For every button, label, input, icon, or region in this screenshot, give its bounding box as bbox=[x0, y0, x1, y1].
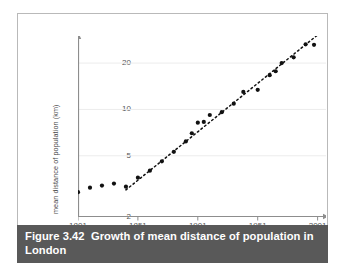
y-axis-title: mean distance of population (km) bbox=[51, 54, 60, 214]
figure-caption-number: Figure 3.42 bbox=[25, 230, 85, 242]
chart-canvas bbox=[78, 36, 326, 221]
figure-caption: Figure 3.42 Growth of mean distance of p… bbox=[25, 230, 320, 257]
y-axis-title-wrap: mean distance of population (km) bbox=[51, 59, 63, 219]
figure-caption-bar: Figure 3.42 Growth of mean distance of p… bbox=[17, 225, 328, 263]
plot-area: 251020 18011851190119512001 bbox=[78, 36, 326, 217]
figure-page: 251020 18011851190119512001 mean distanc… bbox=[0, 0, 345, 276]
